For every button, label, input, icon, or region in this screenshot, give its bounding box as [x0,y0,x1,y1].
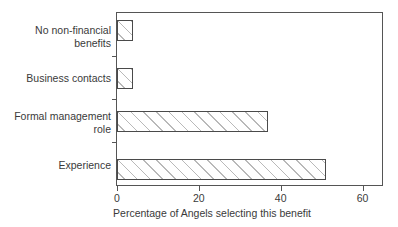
x-axis-tick-0 [117,186,118,191]
y-axis-label-no-non-financial-benefits: No non-financial benefits [0,24,111,49]
x-axis-tick-label-0: 0 [97,192,137,204]
bars-layer [117,12,383,186]
bar-experience [117,159,326,180]
x-axis-tick-label-40: 40 [261,192,301,204]
y-axis-label-business-contacts: Business contacts [0,72,111,85]
x-axis-tick-40 [281,186,282,191]
x-axis-tick-20 [199,186,200,191]
bar-chart: No non-financial benefits Business conta… [0,0,398,227]
x-axis-title: Percentage of Angels selecting this bene… [87,207,311,219]
bar-business-contacts [117,68,133,89]
x-axis-tick-60 [363,186,364,191]
y-axis-label-formal-management-role: Formal management role [0,110,111,135]
x-axis-tick-label-60: 60 [343,192,383,204]
x-axis-tick-label-20: 20 [179,192,219,204]
bar-formal-management-role [117,111,268,132]
y-axis-label-experience: Experience [0,159,111,172]
x-axis-title-wrapper: Percentage of Angels selecting this bene… [0,207,398,219]
bar-no-non-financial-benefits [117,20,133,41]
y-axis-tick-2 [112,99,117,100]
y-axis-tick-3 [112,142,117,143]
y-axis-tick-1 [112,56,117,57]
